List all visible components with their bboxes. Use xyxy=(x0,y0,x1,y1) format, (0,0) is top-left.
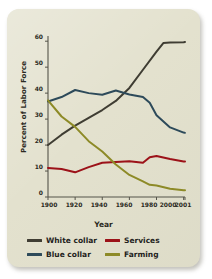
legend-label-farming: Farming xyxy=(124,250,159,259)
legend-swatch-farming xyxy=(105,253,120,256)
legend-swatch-white-collar xyxy=(27,239,42,242)
series-line-blue-collar xyxy=(48,90,185,133)
legend-swatch-blue-collar xyxy=(27,253,42,256)
legend-item-white-collar: White collar xyxy=(27,236,105,245)
legend-label-blue-collar: Blue collar xyxy=(46,250,91,259)
axis-lines xyxy=(48,36,185,197)
legend-item-farming: Farming xyxy=(105,250,185,259)
chart-figure: Percent of Labor Force Year 60 50 40 30 … xyxy=(0,0,212,279)
legend-item-blue-collar: Blue collar xyxy=(27,250,105,259)
chart-legend: White collar Services Blue collar Farmin… xyxy=(27,233,185,261)
chart-plot-svg xyxy=(7,9,200,267)
legend-label-white-collar: White collar xyxy=(46,236,97,245)
legend-item-services: Services xyxy=(105,236,185,245)
legend-swatch-services xyxy=(105,239,120,242)
chart-card: Percent of Labor Force Year 60 50 40 30 … xyxy=(7,9,200,267)
legend-label-services: Services xyxy=(124,236,160,245)
series-line-farming xyxy=(48,100,185,190)
plot-area: Percent of Labor Force Year 60 50 40 30 … xyxy=(7,9,200,267)
data-series-layer xyxy=(48,42,185,190)
